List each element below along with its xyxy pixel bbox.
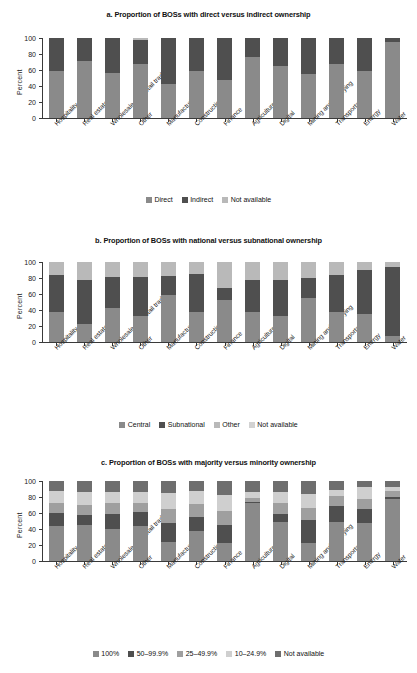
bar-segment (329, 506, 344, 522)
bar-segment (77, 61, 92, 118)
bar-segment (49, 38, 64, 71)
bar-segment (301, 481, 316, 494)
bar-segment (329, 490, 344, 496)
panel-b-y-axis (42, 262, 43, 343)
bar-segment (105, 262, 120, 277)
bar-segment (217, 525, 232, 543)
bar-segment (133, 38, 148, 40)
bar-c-6 (217, 481, 232, 561)
bar-a-10 (329, 38, 344, 118)
bar-segment (161, 523, 176, 541)
bar-segment (133, 481, 148, 492)
panel-a-y-tickmark-20 (39, 102, 42, 103)
panel-c-y-tickmark-40 (39, 529, 42, 530)
legend-item-b-2: Other (214, 421, 240, 428)
bar-segment (105, 481, 120, 492)
panel-a-y-tick-40: 40 (20, 83, 36, 90)
panel-c-y-tick-0: 0 (20, 558, 36, 565)
bar-segment (189, 517, 204, 531)
panel-a-y-axis (42, 38, 43, 119)
bar-segment (161, 262, 176, 276)
bar-segment (77, 505, 92, 515)
panel-b-legend: CentralSubnationalOtherNot available (0, 421, 417, 428)
panel-b-y-tick-0: 0 (20, 339, 36, 346)
panel-b-y-tick-100: 100 (20, 259, 36, 266)
bar-a-8 (273, 38, 288, 118)
bar-segment (385, 487, 400, 490)
legend-swatch-icon (226, 651, 232, 657)
bar-a-6 (217, 38, 232, 118)
bar-segment (357, 270, 372, 314)
panel-c-y-tick-20: 20 (20, 542, 36, 549)
legend-label: 10–24.9% (235, 650, 267, 657)
panel-a-y-tickmark-0 (39, 118, 42, 119)
bar-segment (301, 74, 316, 118)
panel-b-y-tickmark-0 (39, 342, 42, 343)
bar-segment (133, 262, 148, 277)
bar-c-10 (329, 481, 344, 561)
bar-segment (161, 38, 176, 84)
bar-segment (385, 481, 400, 487)
bar-segment (385, 267, 400, 337)
bar-segment (273, 492, 288, 502)
legend-item-c-0: 100% (93, 650, 119, 657)
bar-segment (133, 40, 148, 65)
legend-label: 25–49.9% (186, 650, 218, 657)
panel-c-y-tickmark-80 (39, 497, 42, 498)
bar-b-8 (273, 262, 288, 342)
bar-segment (357, 499, 372, 509)
bar-b-5 (189, 262, 204, 342)
panel-a-y-tickmark-80 (39, 54, 42, 55)
panel-a-y-tick-0: 0 (20, 115, 36, 122)
bar-segment (133, 512, 148, 526)
bar-segment (329, 64, 344, 118)
bar-segment (273, 66, 288, 118)
bar-segment (301, 494, 316, 508)
bar-a-12 (385, 38, 400, 118)
panel-a-y-tick-60: 60 (20, 67, 36, 74)
bar-segment (273, 522, 288, 561)
panel-a-y-tickmark-100 (39, 38, 42, 39)
bar-segment (105, 503, 120, 513)
bar-b-7 (245, 262, 260, 342)
bar-segment (329, 38, 344, 64)
bar-b-0 (49, 262, 64, 342)
panel-b-y-tick-80: 80 (20, 275, 36, 282)
bar-b-1 (77, 262, 92, 342)
bar-segment (217, 511, 232, 525)
bar-segment (385, 499, 400, 561)
bar-segment (245, 38, 260, 57)
bar-segment (245, 498, 260, 502)
bar-c-3 (133, 481, 148, 561)
bar-segment (189, 491, 204, 505)
legend-item-c-3: 10–24.9% (226, 650, 266, 657)
bar-segment (273, 262, 288, 280)
bar-segment (189, 38, 204, 71)
bar-c-7 (245, 481, 260, 561)
panel-c-y-tick-40: 40 (20, 526, 36, 533)
bar-segment (217, 288, 232, 301)
bar-c-8 (273, 481, 288, 561)
legend-item-a-2: Not available (222, 196, 271, 203)
bar-segment (133, 64, 148, 118)
legend-label: Not available (284, 650, 324, 657)
bar-segment (245, 503, 260, 561)
bar-segment (273, 481, 288, 492)
legend-swatch-icon (119, 422, 125, 428)
bar-segment (77, 492, 92, 505)
bar-segment (245, 280, 260, 313)
panel-c-y-tick-100: 100 (20, 478, 36, 485)
legend-item-b-1: Subnational (159, 421, 204, 428)
panel-c-y-tickmark-0 (39, 561, 42, 562)
bar-segment (105, 38, 120, 73)
legend-item-a-0: Direct (146, 196, 173, 203)
legend-label: Other (222, 421, 240, 428)
bar-segment (301, 520, 316, 542)
bar-segment (105, 277, 120, 308)
bar-segment (49, 275, 64, 312)
bar-segment (105, 73, 120, 118)
bar-segment (189, 71, 204, 118)
bar-segment (49, 491, 64, 504)
bar-b-3 (133, 262, 148, 342)
legend-item-b-3: Not available (249, 421, 298, 428)
